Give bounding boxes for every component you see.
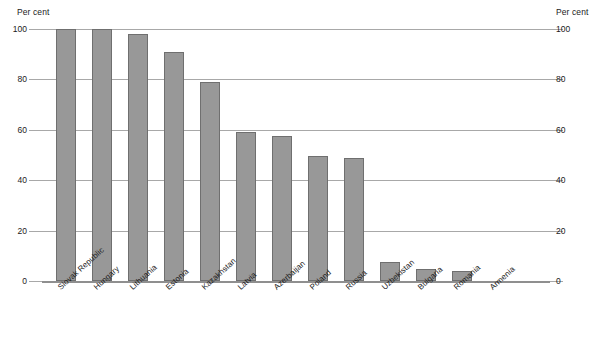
y-tick-label-right-60: 60 (556, 126, 565, 135)
y-tick-label-right-40: 40 (556, 176, 565, 185)
y-tick-label-right-20: 20 (556, 227, 565, 236)
tick-stub-left-60 (29, 130, 42, 131)
y-tick-label-left-20: 20 (0, 227, 27, 236)
bar-estonia[interactable] (164, 52, 184, 281)
bar-latvia[interactable] (236, 132, 256, 281)
gridline-80 (42, 79, 550, 80)
y-tick-label-right-0: 0 (556, 277, 561, 286)
y-tick-label-left-0: 0 (0, 277, 27, 286)
tick-stub-left-20 (29, 231, 42, 232)
tick-stub-left-0 (29, 281, 42, 282)
gridline-40 (42, 180, 550, 181)
bar-slovak-republic[interactable] (56, 29, 76, 281)
right-axis-unit-label: Per cent (556, 7, 588, 17)
plot-area (42, 29, 550, 281)
y-tick-label-left-100: 100 (0, 25, 27, 34)
bar-lithuania[interactable] (128, 34, 148, 281)
y-tick-label-left-80: 80 (0, 75, 27, 84)
y-tick-label-right-100: 100 (556, 25, 570, 34)
bar-russia[interactable] (344, 158, 364, 281)
tick-stub-left-40 (29, 180, 42, 181)
bar-poland[interactable] (308, 156, 328, 281)
gridline-0 (42, 281, 550, 283)
bar-hungary[interactable] (92, 29, 112, 281)
tick-stub-left-100 (29, 29, 42, 30)
bar-chart: Per cent Per cent 0020204040606080801001… (0, 0, 592, 349)
tick-stub-left-80 (29, 79, 42, 80)
y-tick-label-left-60: 60 (0, 126, 27, 135)
y-tick-label-right-80: 80 (556, 75, 565, 84)
bar-azerbaijan[interactable] (272, 136, 292, 281)
y-tick-label-left-40: 40 (0, 176, 27, 185)
gridline-20 (42, 231, 550, 232)
gridline-60 (42, 130, 550, 131)
left-axis-unit-label: Per cent (17, 7, 49, 17)
gridline-100 (42, 29, 550, 30)
bar-kazakhstan[interactable] (200, 82, 220, 281)
